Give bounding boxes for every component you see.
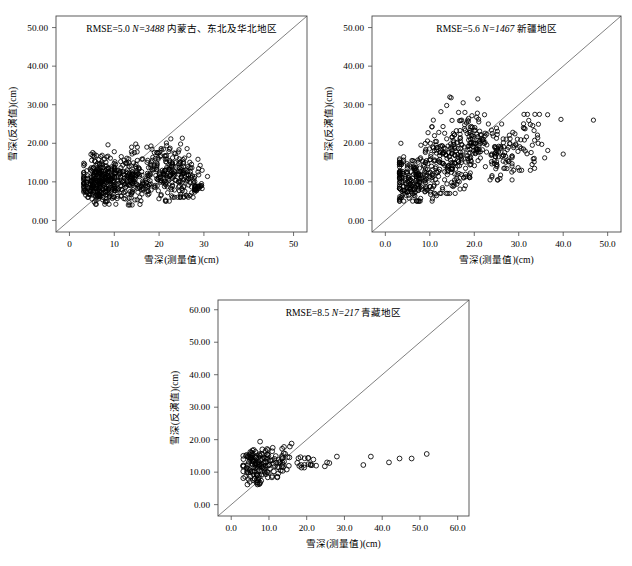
- y-tick-label: 20.00: [343, 138, 364, 148]
- y-tick-label: 50.00: [27, 23, 48, 33]
- scatter-panel-northeast: 010203040500.0010.0020.0030.0040.0050.00…: [0, 0, 318, 282]
- rmse-label: RMSE=5.6: [436, 23, 482, 34]
- x-tick-label: 40.0: [374, 523, 390, 533]
- y-tick-label: 40.00: [27, 61, 48, 71]
- y-tick-label: 40.00: [189, 370, 210, 380]
- x-axis-title: 雪深(测量值)(cm): [306, 538, 381, 550]
- y-axis-title: 雪深(反演值)(cm): [7, 87, 19, 162]
- scatter-points: [241, 439, 429, 487]
- y-tick-label: 10.00: [27, 177, 48, 187]
- x-tick-label: 20.0: [466, 239, 482, 249]
- region-label: 内蒙古、东北及华北地区: [164, 23, 276, 34]
- y-axis: 0.0010.0020.0030.0040.0050.00: [27, 23, 56, 226]
- x-tick-label: 40.0: [555, 239, 571, 249]
- x-tick-label: 30.0: [511, 239, 527, 249]
- x-tick-label: 0: [67, 239, 72, 249]
- chart-svg: 0.010.020.030.040.050.060.00.0010.0020.0…: [158, 284, 480, 566]
- y-tick-label: 50.00: [189, 337, 210, 347]
- one-to-one-reference-line: [372, 16, 621, 232]
- x-axis: 0.010.020.030.040.050.060.0: [225, 516, 466, 533]
- region-label: 青藏地区: [359, 307, 401, 318]
- x-tick-label: 20.0: [299, 523, 315, 533]
- sample-count-label: N=217: [331, 307, 360, 318]
- panel-title: RMSE=8.5 N=217 青藏地区: [286, 307, 402, 318]
- x-tick-label: 50: [289, 239, 299, 249]
- x-tick-label: 0.0: [225, 523, 237, 533]
- x-tick-label: 10.0: [422, 239, 438, 249]
- x-axis: 01020304050: [67, 232, 298, 249]
- y-tick-label: 50.00: [343, 23, 364, 33]
- region-label: 新疆地区: [514, 23, 556, 34]
- x-tick-label: 0.0: [380, 239, 392, 249]
- y-tick-label: 20.00: [27, 138, 48, 148]
- y-axis-title: 雪深(反演值)(cm): [323, 87, 335, 162]
- x-tick-label: 30: [199, 239, 209, 249]
- y-tick-label: 60.00: [189, 305, 210, 315]
- y-tick-label: 0.00: [194, 500, 210, 510]
- rmse-label: RMSE=8.5: [286, 307, 332, 318]
- y-tick-label: 10.00: [189, 467, 210, 477]
- x-tick-label: 30.0: [336, 523, 352, 533]
- x-axis-title: 雪深(测量值)(cm): [459, 254, 534, 266]
- y-tick-label: 30.00: [343, 100, 364, 110]
- rmse-label: RMSE=5.0: [86, 23, 132, 34]
- scatter-points: [82, 136, 210, 207]
- y-tick-label: 0.00: [32, 216, 48, 226]
- y-axis: 0.0010.0020.0030.0040.0050.0060.00: [189, 305, 218, 510]
- x-tick-label: 10.0: [261, 523, 277, 533]
- scatter-points: [397, 95, 595, 203]
- x-axis: 0.010.020.030.040.050.0: [380, 232, 617, 249]
- x-tick-label: 50.0: [412, 523, 428, 533]
- sample-count-label: N=1467: [481, 23, 515, 34]
- y-axis: 0.0010.0020.0030.0040.0050.00: [343, 23, 372, 226]
- sample-count-label: N=3488: [131, 23, 164, 34]
- x-axis-title: 雪深(测量值)(cm): [144, 254, 219, 266]
- chart-svg: 0.010.020.030.040.050.00.0010.0020.0030.…: [318, 0, 632, 282]
- scatter-panel-xinjiang: 0.010.020.030.040.050.00.0010.0020.0030.…: [318, 0, 632, 282]
- chart-svg: 010203040500.0010.0020.0030.0040.0050.00…: [0, 0, 318, 282]
- scatter-panel-tibet: 0.010.020.030.040.050.060.00.0010.0020.0…: [158, 284, 480, 566]
- y-tick-label: 30.00: [27, 100, 48, 110]
- x-tick-label: 60.0: [450, 523, 466, 533]
- x-tick-label: 40: [244, 239, 254, 249]
- x-tick-label: 50.0: [600, 239, 616, 249]
- y-tick-label: 10.00: [343, 177, 364, 187]
- x-tick-label: 10: [110, 239, 120, 249]
- panel-title: RMSE=5.6 N=1467 新疆地区: [436, 23, 556, 34]
- y-tick-label: 30.00: [189, 402, 210, 412]
- y-tick-label: 40.00: [343, 61, 364, 71]
- panel-title: RMSE=5.0 N=3488 内蒙古、东北及华北地区: [86, 23, 276, 34]
- x-tick-label: 20: [154, 239, 164, 249]
- y-axis-title: 雪深(反演值)(cm): [169, 371, 181, 446]
- y-tick-label: 20.00: [189, 435, 210, 445]
- y-tick-label: 0.00: [348, 216, 364, 226]
